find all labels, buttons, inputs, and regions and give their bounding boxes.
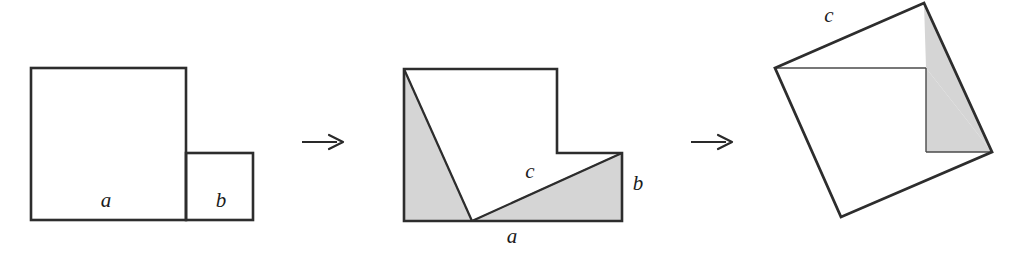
panel2-label-a: a: [507, 224, 518, 248]
pythagorean-dissection-figure: a b c b a: [0, 0, 1022, 255]
arrow-2: [691, 135, 732, 149]
panel3-label-c: c: [824, 3, 834, 27]
panel2-label-c: c: [525, 159, 535, 183]
diagram-canvas: a b c b a: [0, 0, 1022, 255]
panel2-label-b: b: [633, 171, 644, 195]
arrow-1: [302, 135, 343, 149]
panel1-label-a: a: [101, 188, 112, 212]
panel-tilted-square: c: [775, 3, 992, 217]
panel1-label-b: b: [216, 188, 227, 212]
panel-two-squares: a b: [31, 68, 253, 220]
panel-cut-squares: c b a: [404, 69, 643, 248]
